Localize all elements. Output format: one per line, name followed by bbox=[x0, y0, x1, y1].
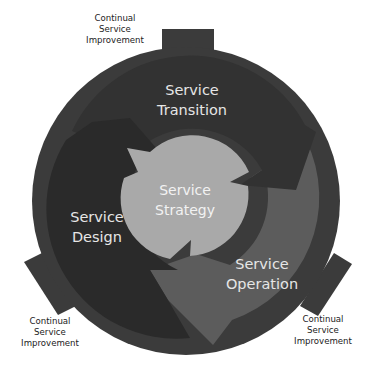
csi-label-bottom-left: Continual Service Improvement bbox=[10, 316, 90, 349]
stage-label-transition: Service Transition bbox=[137, 80, 247, 120]
csi-label-bottom-right: Continual Service Improvement bbox=[283, 314, 363, 347]
core-label-strategy: Service Strategy bbox=[143, 180, 227, 220]
csi-label-top: Continual Service Improvement bbox=[70, 13, 160, 46]
stage-label-operation: Service Operation bbox=[214, 254, 310, 294]
stage-label-design: Service Design bbox=[52, 207, 142, 247]
